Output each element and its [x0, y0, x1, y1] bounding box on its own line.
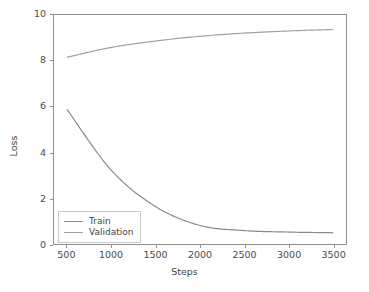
- x-tick-mark: [245, 245, 246, 248]
- y-tick-mark: [50, 245, 53, 246]
- legend-label-train: Train: [89, 217, 111, 226]
- y-tick-label-2: 2: [40, 194, 46, 204]
- y-tick-label-8: 8: [40, 55, 46, 65]
- x-tick-mark: [156, 245, 157, 248]
- x-tick-mark: [289, 245, 290, 248]
- x-tick-mark: [334, 245, 335, 248]
- y-axis-label: Loss: [8, 136, 19, 157]
- x-tick-label-2500: 2500: [232, 250, 256, 260]
- x-tick-label-1500: 1500: [143, 250, 167, 260]
- legend-swatch-train: [64, 221, 83, 222]
- x-axis-label: Steps: [0, 266, 369, 277]
- legend-swatch-validation: [64, 232, 83, 233]
- legend: Train Validation: [58, 211, 141, 243]
- line-series-validation: [67, 29, 332, 57]
- x-tick-label-3000: 3000: [277, 250, 301, 260]
- y-tick-label-6: 6: [40, 102, 46, 112]
- series-canvas: [54, 15, 346, 244]
- x-tick-label-1000: 1000: [99, 250, 123, 260]
- legend-item-validation: Validation: [64, 227, 133, 238]
- x-tick-mark: [111, 245, 112, 248]
- y-tick-label-10: 10: [34, 9, 46, 19]
- x-tick-label-2000: 2000: [188, 250, 212, 260]
- y-tick-label-4: 4: [40, 148, 46, 158]
- x-tick-label-500: 500: [57, 250, 75, 260]
- y-tick-label-0: 0: [40, 240, 46, 250]
- loss-curve-figure: 0 2 4 6 8 10 500 1000 1500 2000 2500 300…: [0, 0, 369, 292]
- legend-label-validation: Validation: [89, 228, 133, 237]
- x-tick-mark: [66, 245, 67, 248]
- x-tick-label-3500: 3500: [322, 250, 346, 260]
- x-tick-mark: [200, 245, 201, 248]
- legend-item-train: Train: [64, 216, 133, 227]
